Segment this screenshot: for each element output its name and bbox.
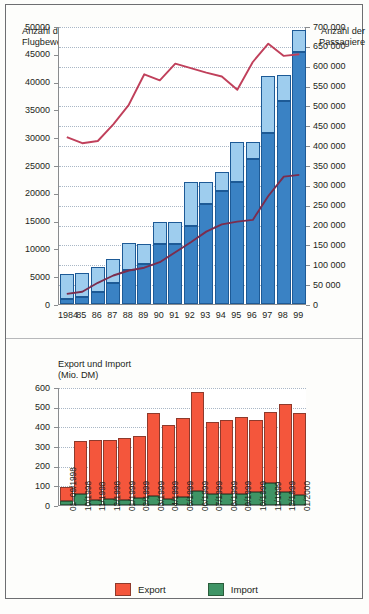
legend-label-export: Export bbox=[138, 584, 166, 595]
right-y-tick-label: 200 000 bbox=[313, 221, 346, 230]
x-tick-label: 88 bbox=[120, 311, 136, 320]
x-tick-label: 95 bbox=[229, 311, 245, 320]
x-tick-label: 92 bbox=[182, 311, 198, 320]
trade-y-tick-label: 500 bbox=[0, 403, 50, 412]
trade-statistics-chart: Export und Import (Mio. DM) Export Impor… bbox=[0, 338, 369, 614]
x-tick-label: 96 bbox=[244, 311, 260, 320]
trade-y-tick-label: 200 bbox=[0, 462, 50, 471]
left-y-tick-label: 40000 bbox=[0, 78, 50, 87]
trade-x-tick-label: 06/1999 bbox=[201, 481, 209, 511]
trade-x-tick-label: 11/1998 bbox=[98, 482, 106, 511]
trade-axis-title: Export und Import (Mio. DM) bbox=[58, 359, 131, 380]
right-y-tick-label: 50 000 bbox=[313, 281, 341, 290]
legend-swatch-export bbox=[115, 583, 131, 596]
right-y-tick-label: 250 000 bbox=[313, 201, 346, 210]
left-y-tick-label: 50000 bbox=[0, 23, 50, 32]
trade-x-tick-label: 01/1999 bbox=[128, 481, 136, 511]
x-tick-label: 99 bbox=[291, 311, 307, 320]
right-y-tick-label: 650 000 bbox=[313, 42, 346, 51]
left-y-tick-label: 20000 bbox=[0, 189, 50, 198]
trade-x-tick-label: 11/1999 bbox=[274, 482, 282, 511]
left-y-tick-label: 10000 bbox=[0, 245, 50, 254]
line-series bbox=[67, 175, 299, 294]
trade-x-tick-label: 12/1998 bbox=[113, 481, 121, 511]
bar-segment-export bbox=[264, 412, 277, 483]
right-y-tick-label: 350 000 bbox=[313, 162, 346, 171]
trade-plot-area bbox=[58, 388, 306, 506]
trade-y-tick-label: 600 bbox=[0, 384, 50, 393]
trade-x-tick-label: 10/1998 bbox=[84, 481, 92, 511]
trade-x-tick-label: 07/1999 bbox=[215, 481, 223, 511]
bar-segment-export bbox=[191, 392, 204, 490]
right-y-tick-label: 550 000 bbox=[313, 82, 346, 91]
right-y-tick-label: 150 000 bbox=[313, 241, 346, 250]
right-y-tick-label: 300 000 bbox=[313, 181, 346, 190]
right-y-tick-label: 0 bbox=[313, 301, 318, 310]
right-y-tick-label: 400 000 bbox=[313, 142, 346, 151]
x-tick-label: 91 bbox=[167, 311, 183, 320]
right-y-tick-label: 450 000 bbox=[313, 122, 346, 131]
left-y-tick-label: 0 bbox=[0, 301, 50, 310]
flight-movement-lines bbox=[59, 27, 307, 305]
trade-y-tick-label: 400 bbox=[0, 423, 50, 432]
trade-x-tick-label: 02/1999 bbox=[142, 481, 150, 511]
page-root: Anzahl der Flugbewegungen Anzahl der Pas… bbox=[0, 0, 369, 614]
trade-x-tick-label: 04/1999 bbox=[171, 481, 179, 511]
x-tick-label: 98 bbox=[275, 311, 291, 320]
trade-x-tick-label: 08/1999 bbox=[230, 481, 238, 511]
trade-x-tick-label: 12/1999 bbox=[288, 481, 296, 511]
left-y-tick-label: 30000 bbox=[0, 134, 50, 143]
trade-y-tick-label: 100 bbox=[0, 482, 50, 491]
trade-y-tick-label: 300 bbox=[0, 443, 50, 452]
left-y-tick-label: 45000 bbox=[0, 50, 50, 59]
trade-x-tick-label: 01–09/1998 bbox=[69, 467, 77, 511]
x-tick-label: 97 bbox=[260, 311, 276, 320]
x-tick-label: 85 bbox=[74, 311, 90, 320]
trade-x-tick-label: 01/2000 bbox=[303, 481, 311, 511]
x-tick-label: 86 bbox=[89, 311, 105, 320]
x-tick-label: 87 bbox=[105, 311, 121, 320]
x-tick-label: 89 bbox=[136, 311, 152, 320]
right-y-tick-label: 100 000 bbox=[313, 261, 346, 270]
x-tick-label: 94 bbox=[213, 311, 229, 320]
trade-y-tick-label: 0 bbox=[0, 502, 50, 511]
line-series bbox=[67, 44, 299, 144]
trade-x-tick-label: 05/1999 bbox=[186, 481, 194, 511]
legend-label-import: Import bbox=[231, 584, 258, 595]
trade-legend: Export Import bbox=[115, 583, 258, 596]
right-y-tick-label: 600 000 bbox=[313, 62, 346, 71]
right-y-tick-label: 700 000 bbox=[313, 23, 346, 32]
flight-statistics-chart: Anzahl der Flugbewegungen Anzahl der Pas… bbox=[0, 0, 369, 338]
x-tick-label: 90 bbox=[151, 311, 167, 320]
left-y-tick-label: 25000 bbox=[0, 162, 50, 171]
legend-swatch-import bbox=[208, 583, 224, 596]
x-tick-label: 1984 bbox=[58, 311, 74, 320]
x-tick-label: 93 bbox=[198, 311, 214, 320]
bar-segment-export bbox=[279, 404, 292, 493]
flight-plot-area bbox=[58, 27, 306, 305]
right-y-tick-label: 500 000 bbox=[313, 102, 346, 111]
trade-x-tick-label: 10/1999 bbox=[259, 481, 267, 511]
left-y-tick-label: 35000 bbox=[0, 106, 50, 115]
left-y-tick-label: 5000 bbox=[0, 273, 50, 282]
trade-x-tick-label: 09/1999 bbox=[244, 481, 252, 511]
left-y-tick-label: 15000 bbox=[0, 217, 50, 226]
trade-x-tick-label: 03/1999 bbox=[157, 481, 165, 511]
